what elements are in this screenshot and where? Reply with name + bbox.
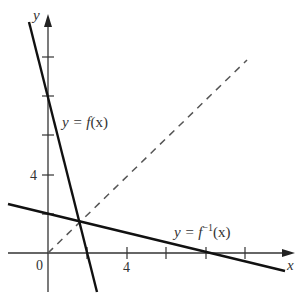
origin-label: 0 xyxy=(36,258,43,273)
y-axis-label: y xyxy=(31,7,40,23)
graph: y x 0 4 4 y = f(x) y = f−1(x) xyxy=(0,0,300,303)
x-tick-label-4: 4 xyxy=(123,260,130,275)
y-tick-label-4: 4 xyxy=(30,168,37,183)
curve-f-inverse xyxy=(8,204,285,271)
curve-f xyxy=(29,22,97,292)
y-axis-arrow-icon xyxy=(44,14,52,27)
x-axis-arrow-icon xyxy=(282,249,295,257)
x-axis-label: x xyxy=(286,257,294,273)
label-f: y = f(x) xyxy=(60,114,108,131)
label-f-inverse: y = f−1(x) xyxy=(172,222,231,241)
